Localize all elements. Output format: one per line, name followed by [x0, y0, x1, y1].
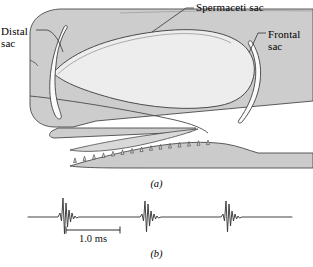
- waveform-group: [28, 198, 292, 234]
- scalebar-label: 1.0 ms: [62, 233, 124, 244]
- frontal-sac-label-line2: sac: [268, 41, 300, 53]
- frontal-sac-label: Frontal sac: [268, 29, 300, 52]
- waveform-trace: [28, 198, 292, 234]
- distal-sac-label: Distal sac: [1, 26, 28, 49]
- figure-artwork: [0, 0, 313, 267]
- figure-root: Distal sac Spermaceti sac Frontal sac (a…: [0, 0, 313, 267]
- panel-a-caption: (a): [0, 178, 313, 189]
- distal-sac-label-line1: Distal: [1, 25, 28, 37]
- panel-b-caption: (b): [0, 248, 313, 259]
- spermaceti-sac-label: Spermaceti sac: [196, 2, 264, 14]
- frontal-sac-label-line1: Frontal: [268, 28, 300, 40]
- distal-sac-label-line2: sac: [1, 38, 28, 50]
